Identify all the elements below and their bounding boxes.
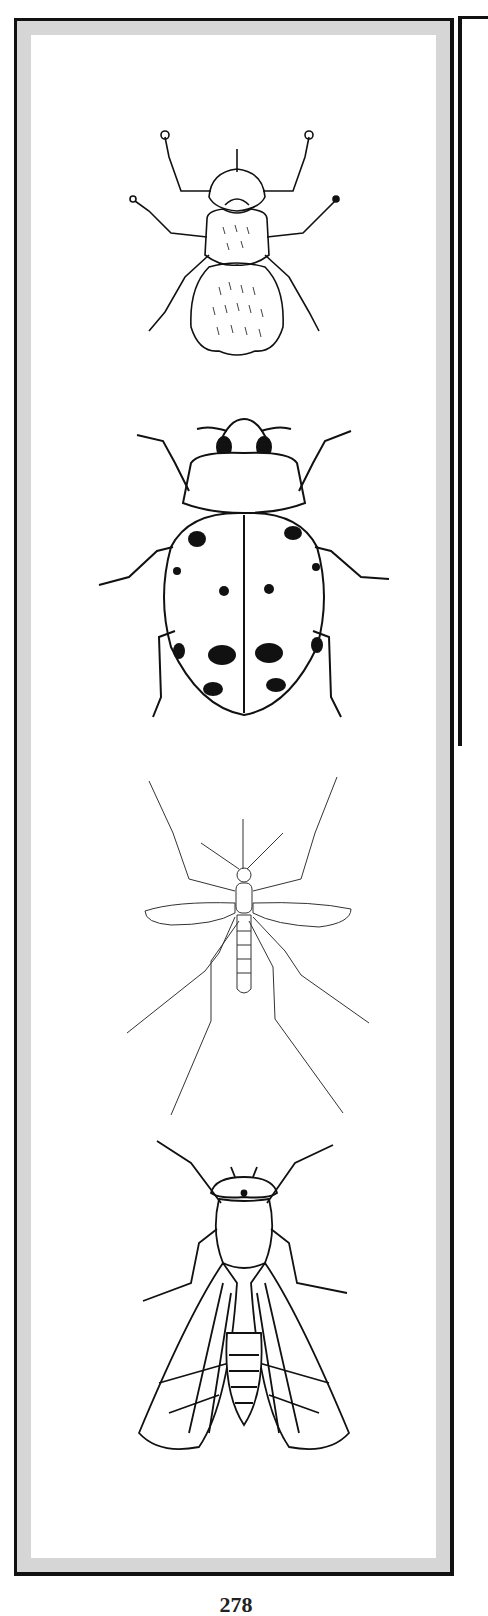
illustration-frame [14,18,454,1576]
illustration-panel [31,35,436,1558]
ladybug-icon [79,407,409,717]
fly-icon [119,1133,369,1463]
mosquito-icon [115,761,375,1121]
adjacent-panel-edge [458,16,488,746]
louse-icon [129,127,339,372]
page-number: 278 [0,1594,472,1616]
